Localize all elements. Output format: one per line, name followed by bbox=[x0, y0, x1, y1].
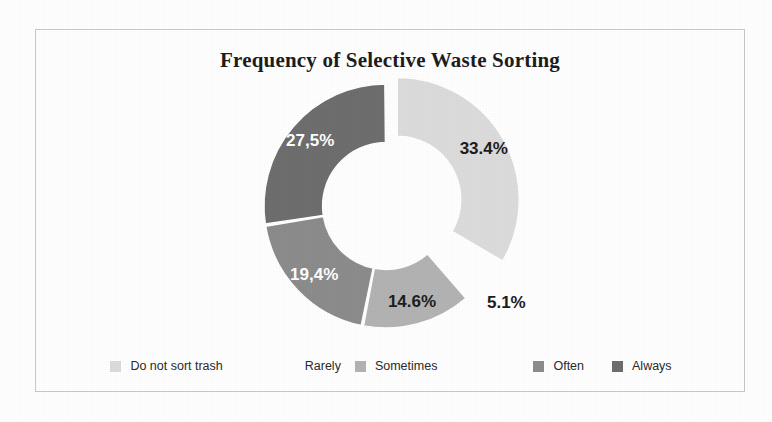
legend-item[interactable]: Sometimes bbox=[355, 359, 438, 373]
pie-slice[interactable] bbox=[264, 84, 385, 224]
doughnut-chart-svg: 33.4%5.1%14.6%19,4%27,5% bbox=[36, 72, 746, 344]
legend-swatch-icon bbox=[612, 361, 623, 372]
legend-item-label: Often bbox=[553, 359, 584, 373]
legend-swatch-icon bbox=[355, 361, 366, 372]
pie-slice-value-label: 33.4% bbox=[460, 139, 508, 158]
pie-slice[interactable] bbox=[397, 78, 519, 261]
chart-title: Frequency of Selective Waste Sorting bbox=[36, 48, 744, 73]
doughnut-chart: 33.4%5.1%14.6%19,4%27,5% bbox=[36, 72, 746, 344]
legend-item-label: Do not sort trash bbox=[130, 359, 222, 373]
pie-slice-value-label: 19,4% bbox=[290, 265, 338, 284]
legend-item[interactable]: Always bbox=[612, 359, 672, 373]
legend-item-label: Rarely bbox=[305, 359, 341, 373]
pie-slice-value-label: 14.6% bbox=[388, 292, 436, 311]
legend-item[interactable]: Do not sort trash bbox=[110, 359, 222, 373]
legend-swatch-icon bbox=[285, 361, 296, 372]
legend-swatch-icon bbox=[533, 361, 544, 372]
legend-item-label: Sometimes bbox=[375, 359, 438, 373]
legend-swatch-icon bbox=[110, 361, 121, 372]
pie-slice-value-label: 5.1% bbox=[487, 293, 526, 312]
legend-item[interactable]: Rarely bbox=[285, 359, 341, 373]
legend-item[interactable]: Often bbox=[533, 359, 584, 373]
chart-legend: Do not sort trashRarelySometimesOftenAlw… bbox=[36, 359, 746, 373]
pie-slice-value-label: 27,5% bbox=[286, 131, 334, 150]
legend-item-label: Always bbox=[632, 359, 672, 373]
slice-group bbox=[264, 78, 519, 328]
chart-frame: Frequency of Selective Waste Sorting 33.… bbox=[35, 29, 745, 392]
